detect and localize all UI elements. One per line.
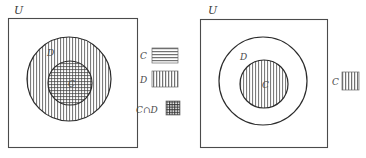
set-label-D-right: D xyxy=(239,52,247,62)
set-label-D-left: D xyxy=(46,48,54,58)
legend-left: C D C∩D xyxy=(136,48,180,115)
legend-right: C xyxy=(332,72,359,90)
legend-label-C-and-D-left: C∩D xyxy=(136,105,158,115)
panel-right: U D C C xyxy=(201,4,360,148)
legend-label-C-right: C xyxy=(332,77,339,87)
legend-swatch-C-right xyxy=(342,72,359,90)
panel-left: U D C C D C∩D xyxy=(9,4,181,148)
universe-label-right: U xyxy=(208,4,218,17)
legend-label-C-left: C xyxy=(140,51,147,61)
set-label-C-right: C xyxy=(262,80,269,90)
legend-swatch-C-left xyxy=(152,48,178,63)
legend-label-D-left: D xyxy=(139,75,147,85)
set-label-C-left: C xyxy=(68,79,75,89)
diagram-canvas: U D C C D C∩D U D C C xyxy=(0,0,366,158)
legend-swatch-D-left xyxy=(152,71,178,87)
legend-swatch-C-and-D-left xyxy=(166,101,180,115)
universe-label-left: U xyxy=(14,4,24,17)
venn-diagram-svg: U D C C D C∩D U D C C xyxy=(0,0,366,158)
